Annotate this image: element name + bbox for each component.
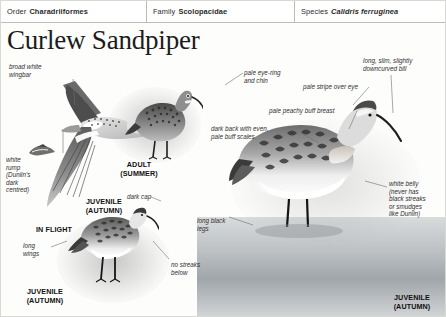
annotation-long-black-legs: long black legs (197, 217, 247, 232)
annotation-pale-eye-ring-and-chin: pale eye-ring and chin (244, 69, 310, 84)
taxonomy-family: Family Scolopacidae (147, 1, 295, 22)
caption-adult-summer: ADULT (SUMMER) (109, 160, 169, 178)
bird-guide-page: Order Charadriiformes Family Scolopacida… (0, 0, 446, 317)
bird-juvenile-in-water (229, 93, 405, 249)
taxonomy-order-value: Charadriiformes (29, 7, 88, 16)
annotation-pale-peachy-buff-breast: pale peachy buff breast (269, 107, 359, 115)
taxonomy-bar: Order Charadriiformes Family Scolopacida… (1, 1, 446, 23)
annotation-pale-stripe-over-eye: pale stripe over eye (303, 83, 383, 91)
annotation-no-streaks-below: no streaks below (171, 261, 229, 276)
caption-in-flight: IN FLIGHT (23, 225, 85, 234)
taxonomy-species: Species Calidris ferruginea (295, 1, 446, 22)
taxonomy-family-value: Scolopacidae (178, 7, 227, 16)
taxonomy-species-label: Species (301, 7, 328, 16)
caption-juvenile-autumn-standing: JUVENILE (AUTUMN) (15, 287, 75, 305)
taxonomy-order-label: Order (7, 7, 26, 16)
taxonomy-order: Order Charadriiformes (1, 1, 147, 22)
annotation-white-rump: white rump (Dunlin's dark centred) (6, 156, 58, 194)
caption-juvenile-autumn-flight: JUVENILE (AUTUMN) (79, 197, 129, 215)
annotation-long-wings: long wings (23, 242, 63, 257)
annotation-broad-white-wingbar: broad white wingbar (9, 63, 79, 78)
caption-juvenile-autumn-water: JUVENILE (AUTUMN) (383, 293, 441, 311)
bird-adult-summer (119, 79, 203, 163)
annotation-dark-back-scales: dark back with even, pale buff scales (211, 125, 303, 140)
taxonomy-family-label: Family (153, 7, 175, 16)
annotation-dark-cap: dark cap (127, 193, 169, 201)
annotation-white-belly: white belly (never has black streaks or … (389, 180, 445, 218)
taxonomy-species-value: Calidris ferruginea (331, 7, 398, 16)
annotation-downcurved-bill: long, slim, slightly downcurved bill (363, 57, 443, 72)
page-title: Curlew Sandpiper (7, 25, 200, 55)
